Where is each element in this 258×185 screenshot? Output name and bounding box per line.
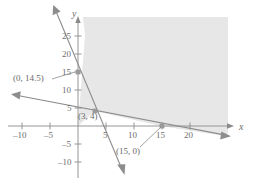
coordinate-plane bbox=[0, 0, 258, 185]
x-axis-arrowhead bbox=[227, 123, 234, 129]
y-tick-label--5: –5 bbox=[62, 140, 71, 149]
label-intersection: (3, 4) bbox=[78, 112, 98, 121]
y-tick-label-25: 25 bbox=[62, 32, 71, 41]
y-tick-label--10: –10 bbox=[58, 158, 72, 167]
y-axis-label: y bbox=[72, 9, 76, 19]
graph-figure: –10 –5 5 10 15 20 25 20 15 10 5 –5 –10 x… bbox=[0, 0, 258, 185]
x-tick-label-10: 10 bbox=[128, 131, 137, 140]
x-axis-label: x bbox=[239, 122, 243, 132]
y-tick-label-15: 15 bbox=[62, 68, 71, 77]
label-y-intercept: (0, 14.5) bbox=[13, 74, 44, 83]
x-tick-label-5: 5 bbox=[103, 131, 108, 140]
x-tick-label-15: 15 bbox=[156, 131, 165, 140]
y-tick-label-5: 5 bbox=[67, 104, 72, 113]
feasible-region-main bbox=[83, 17, 228, 136]
y-tick-label-20: 20 bbox=[62, 50, 71, 59]
y-tick-label-10: 10 bbox=[62, 86, 71, 95]
steep-line-arrow-bottom bbox=[117, 164, 125, 175]
label-x-intercept: (15, 0) bbox=[116, 147, 140, 156]
x-tick-label--5: –5 bbox=[44, 131, 53, 140]
shallow-line-arrow-left bbox=[11, 91, 21, 99]
x-tick-label-20: 20 bbox=[184, 131, 193, 140]
point-marker-0-145 bbox=[76, 70, 81, 75]
x-tick-label--10: –10 bbox=[13, 131, 27, 140]
